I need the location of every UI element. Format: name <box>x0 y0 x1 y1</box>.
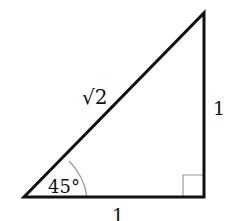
horizontal-leg-label: 1 <box>112 204 124 221</box>
triangle-diagram: √2 1 1 45° <box>0 0 229 221</box>
hypotenuse-label: √2 <box>82 85 107 109</box>
angle-label: 45° <box>48 176 80 197</box>
vertical-leg-label: 1 <box>213 97 225 119</box>
right-angle-marker <box>183 175 204 197</box>
triangle <box>24 13 204 197</box>
